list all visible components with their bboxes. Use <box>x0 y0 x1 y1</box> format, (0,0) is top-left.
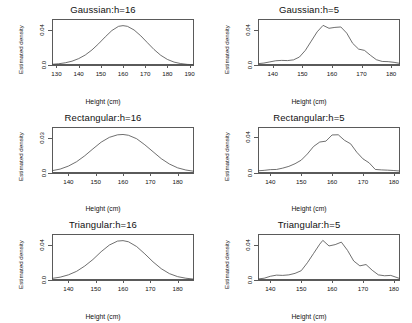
y-tick-label-text: 0.0 <box>41 276 47 284</box>
x-axis-label: Height (cm) <box>0 98 206 105</box>
x-tick-label: 150 <box>296 178 306 185</box>
y-tick-label-text: 0.04 <box>39 24 45 36</box>
x-tick-label: 170 <box>358 285 368 292</box>
x-tick-mark <box>394 280 395 283</box>
x-tick-mark <box>68 173 69 176</box>
x-axis-label: Height (cm) <box>0 313 206 320</box>
y-tick-label: 0.0 <box>246 61 254 69</box>
y-axis-label-text: Estimated density <box>17 132 24 181</box>
y-tick-label-text: 0.04 <box>245 239 251 251</box>
x-axis-line <box>258 280 400 281</box>
x-tick-label: 150 <box>96 70 106 77</box>
x-tick-label: 160 <box>118 70 128 77</box>
x-tick-label: 140 <box>73 70 83 77</box>
x-tick-label: 150 <box>91 178 101 185</box>
x-tick-label: 150 <box>297 70 307 77</box>
x-tick-label: 170 <box>358 178 368 185</box>
kde-panel-2: Gaussian:h=5Estimated density0.00.041401… <box>206 0 412 108</box>
x-tick-mark <box>145 65 146 68</box>
plot-area <box>258 19 400 65</box>
density-curve <box>258 134 400 170</box>
y-axis-label: Estimated density <box>220 18 232 80</box>
x-axis-label: Height (cm) <box>206 98 412 105</box>
x-axis: 140150160170180 <box>52 280 194 296</box>
kde-panel-3: Rectangular:h=16Estimated density0.00.03… <box>0 108 206 216</box>
x-tick-label: 180 <box>172 178 182 185</box>
plot-area <box>258 234 400 280</box>
density-curve <box>258 25 400 63</box>
x-tick-mark <box>363 173 364 176</box>
y-tick-label: 0.04 <box>36 26 48 34</box>
x-tick-label: 160 <box>327 178 337 185</box>
density-curve <box>52 26 194 65</box>
y-axis-label-text: Estimated density <box>223 240 230 289</box>
x-tick-label: 140 <box>63 285 73 292</box>
kde-panel-4: Rectangular:h=5Estimated density0.00.041… <box>206 108 412 216</box>
panel-title: Rectangular:h=5 <box>206 112 412 123</box>
density-curve-svg <box>52 19 194 65</box>
plot-area <box>258 127 400 173</box>
x-axis: 140150160170180 <box>52 173 194 189</box>
plot-area <box>52 127 194 173</box>
x-tick-mark <box>101 65 102 68</box>
density-curve <box>52 134 194 171</box>
y-axis-ticks: 0.00.03 <box>30 127 50 173</box>
y-tick-label: 0.0 <box>246 276 254 284</box>
panel-title: Gaussian:h=5 <box>206 4 412 15</box>
y-axis-ticks: 0.00.04 <box>236 19 256 65</box>
y-tick-label: 0.0 <box>40 61 48 69</box>
y-axis-label: Estimated density <box>14 18 26 80</box>
x-tick-mark <box>123 173 124 176</box>
kde-panel-6: Triangular:h=5Estimated density0.00.0414… <box>206 215 412 323</box>
y-tick-label-text: 0.03 <box>39 132 45 144</box>
y-tick-label-text: 0.0 <box>247 276 253 284</box>
x-tick-label: 160 <box>327 285 337 292</box>
x-tick-mark <box>123 280 124 283</box>
y-tick-label: 0.0 <box>246 169 254 177</box>
x-tick-label: 160 <box>118 285 128 292</box>
x-tick-label: 140 <box>265 178 275 185</box>
kde-figure: Gaussian:h=16Estimated density0.00.04130… <box>0 0 412 323</box>
x-tick-label: 140 <box>265 285 275 292</box>
x-tick-mark <box>190 65 191 68</box>
x-tick-mark <box>363 280 364 283</box>
x-tick-mark <box>391 65 392 68</box>
y-axis-ticks: 0.00.04 <box>30 19 50 65</box>
x-tick-mark <box>56 65 57 68</box>
y-tick-label-text: 0.04 <box>245 131 251 143</box>
y-axis-label: Estimated density <box>220 126 232 188</box>
x-tick-mark <box>178 280 179 283</box>
x-tick-mark <box>301 280 302 283</box>
y-tick-label-text: 0.0 <box>247 168 253 176</box>
density-curve-svg <box>258 19 400 65</box>
y-tick-label: 0.04 <box>36 241 48 249</box>
x-axis-line <box>258 65 400 66</box>
y-tick-label: 0.04 <box>242 26 254 34</box>
y-tick-label: 0.03 <box>36 134 48 142</box>
x-tick-label: 160 <box>327 70 337 77</box>
y-axis-ticks: 0.00.04 <box>236 234 256 280</box>
x-tick-mark <box>167 65 168 68</box>
x-tick-mark <box>123 65 124 68</box>
density-curve-svg <box>52 127 194 173</box>
y-tick-label-text: 0.04 <box>245 24 251 36</box>
x-axis: 140150160170180 <box>258 65 400 81</box>
x-tick-mark <box>150 173 151 176</box>
x-tick-label: 160 <box>118 178 128 185</box>
x-tick-label: 140 <box>268 70 278 77</box>
y-tick-label-text: 0.0 <box>41 168 47 176</box>
x-tick-label: 180 <box>172 285 182 292</box>
x-tick-mark <box>96 173 97 176</box>
density-curve-svg <box>258 127 400 173</box>
x-tick-label: 170 <box>356 70 366 77</box>
panel-title: Triangular:h=5 <box>206 219 412 230</box>
x-axis-label: Height (cm) <box>206 205 412 212</box>
x-tick-mark <box>332 65 333 68</box>
x-axis-line <box>258 173 400 174</box>
x-tick-label: 180 <box>386 70 396 77</box>
x-tick-label: 150 <box>91 285 101 292</box>
kde-panel-1: Gaussian:h=16Estimated density0.00.04130… <box>0 0 206 108</box>
y-axis-label-text: Estimated density <box>223 132 230 181</box>
x-tick-mark <box>96 280 97 283</box>
x-tick-mark <box>150 280 151 283</box>
